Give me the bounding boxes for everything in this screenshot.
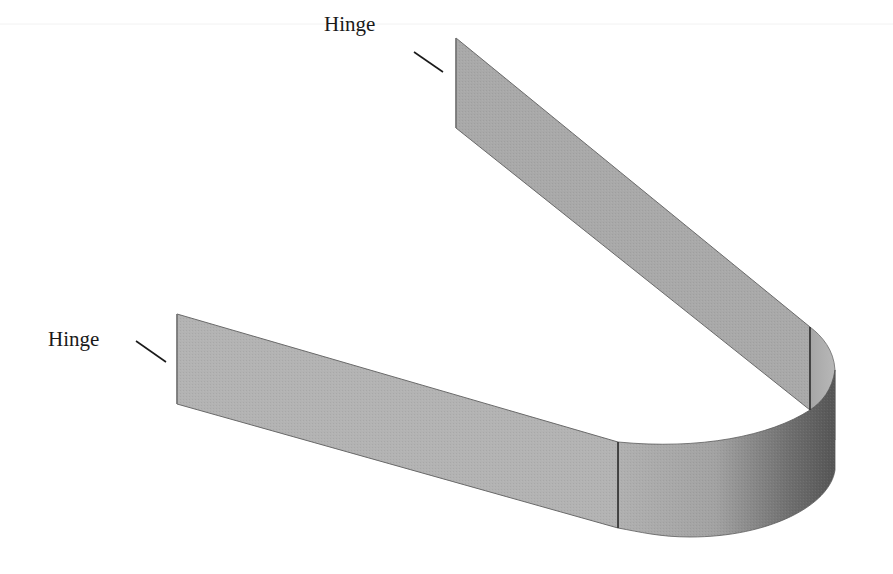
hinge-top-leader-line: [414, 52, 443, 72]
hinge-top-label: Hinge: [324, 14, 375, 35]
lower-flat-strip: [177, 314, 618, 528]
figure-canvas: Hinge Hinge: [0, 0, 893, 574]
ribbon-diagram: [0, 0, 893, 574]
hinge-left-leader-line: [136, 341, 166, 362]
hinge-left-label: Hinge: [48, 329, 99, 350]
upper-flat-strip: [456, 38, 810, 410]
